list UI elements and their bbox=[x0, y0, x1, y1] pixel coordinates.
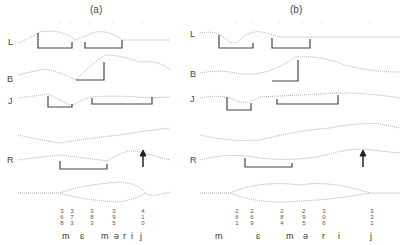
bracket-a-J2 bbox=[92, 97, 152, 104]
panel-a-tick-3: 395 bbox=[111, 208, 117, 226]
trace-b-R-upper bbox=[200, 124, 400, 141]
panel-b-label-L: L bbox=[190, 29, 195, 39]
bracket-b-R bbox=[245, 158, 292, 167]
panel-b-phoneme: r bbox=[322, 231, 325, 241]
trace-b-J bbox=[200, 93, 400, 102]
panel-b-label-J: J bbox=[190, 94, 195, 104]
bracket-a-J1 bbox=[48, 96, 72, 107]
bracket-b-B bbox=[272, 60, 298, 81]
panel-b-phoneme: i bbox=[338, 231, 340, 241]
panel-b-tick-5: 331 bbox=[369, 208, 375, 226]
panel-b-title: (b) bbox=[290, 4, 302, 15]
panel-a-tick-2: 383 bbox=[89, 208, 95, 226]
panel-b-phoneme: m bbox=[286, 231, 294, 241]
trace-a-audio-bottom bbox=[60, 193, 145, 202]
bracket-b-L1 bbox=[219, 35, 253, 48]
panel-b-tick-4: 306 bbox=[321, 208, 327, 226]
panel-b-tick-2: 284 bbox=[279, 208, 285, 226]
panel-a-tick-1: 373 bbox=[69, 208, 75, 226]
panel-a-phoneme: m bbox=[101, 231, 109, 241]
bracket-a-R bbox=[60, 161, 107, 169]
panel-a-title: (a) bbox=[90, 4, 102, 15]
panel-b-tick-0: 261 bbox=[234, 208, 240, 226]
figure: (a) (b) L B J R L B J R 368 373 383 395 … bbox=[0, 0, 407, 245]
panel-a-phoneme: ə bbox=[114, 231, 119, 241]
panel-b-phoneme: ɛ bbox=[256, 231, 260, 241]
panel-b-label-B: B bbox=[190, 69, 196, 79]
panel-b-label-R: R bbox=[190, 155, 197, 165]
panel-b-tick-1: 269 bbox=[249, 208, 255, 226]
panel-a-tick-0: 368 bbox=[59, 208, 65, 226]
panel-a-phoneme: r bbox=[123, 231, 126, 241]
trace-b-R bbox=[200, 149, 400, 160]
panel-a-tick-4: 410 bbox=[140, 208, 146, 226]
bracket-a-B bbox=[76, 62, 104, 80]
arrow-b-head bbox=[360, 150, 366, 156]
panel-a-label-J: J bbox=[8, 96, 13, 106]
panel-b-tick-3: 295 bbox=[301, 208, 307, 226]
panel-b-phoneme: j bbox=[370, 231, 372, 241]
panel-a-phoneme: i bbox=[131, 231, 133, 241]
panel-a-label-R: R bbox=[7, 155, 14, 165]
trace-a-R-upper bbox=[18, 128, 170, 143]
panel-a-label-B: B bbox=[7, 74, 13, 84]
bracket-a-L2 bbox=[85, 40, 122, 48]
trace-b-audio-bottom bbox=[230, 193, 370, 202]
panel-b-phoneme: ə bbox=[303, 231, 308, 241]
trace-a-R bbox=[18, 151, 170, 161]
bracket-b-L2 bbox=[272, 38, 310, 48]
panel-b-phoneme: m bbox=[215, 231, 223, 241]
trace-a-L bbox=[18, 31, 170, 43]
panel-a-phoneme: m bbox=[62, 231, 70, 241]
trace-b-audio-top bbox=[200, 184, 400, 193]
trace-b-L bbox=[200, 32, 400, 43]
trace-a-audio-top bbox=[18, 182, 170, 195]
panel-a-phoneme: j bbox=[140, 231, 142, 241]
trace-b-B bbox=[200, 57, 400, 74]
trace-a-B bbox=[18, 55, 170, 80]
panel-a-phoneme: ɛ bbox=[80, 231, 84, 241]
panel-a-label-L: L bbox=[8, 37, 13, 47]
bracket-b-J2 bbox=[277, 95, 338, 104]
